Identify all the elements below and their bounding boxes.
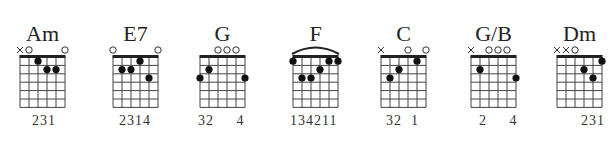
muted-string-icon	[554, 47, 560, 53]
nut	[557, 55, 603, 58]
chord-diagram-dm	[0, 0, 615, 146]
fingering-numbers: 231	[581, 113, 605, 129]
finger-dot-icon	[589, 74, 596, 81]
open-string-icon	[572, 47, 578, 53]
finger-dot-icon	[598, 58, 605, 65]
muted-string-icon	[563, 47, 569, 53]
finger-dot-icon	[580, 66, 587, 73]
